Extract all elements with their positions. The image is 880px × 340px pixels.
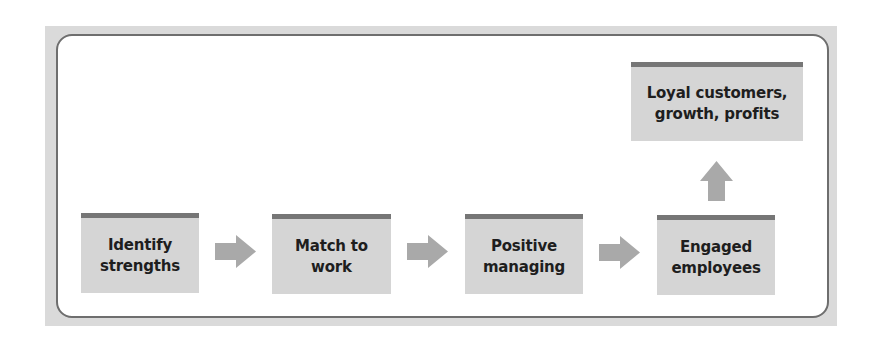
step-box-identify-strengths: Identify strengths bbox=[81, 213, 199, 293]
arrow-right-icon bbox=[215, 235, 257, 268]
step-label: Positive managing bbox=[483, 236, 565, 278]
arrow-right-icon bbox=[599, 236, 641, 269]
step-label: Identify strengths bbox=[100, 235, 180, 277]
step-label: Match to work bbox=[295, 236, 368, 278]
outcome-label: Loyal customers, growth, profits bbox=[647, 83, 788, 125]
step-box-match-to-work: Match to work bbox=[272, 214, 391, 294]
outcome-box: Loyal customers, growth, profits bbox=[631, 62, 803, 141]
step-box-positive-managing: Positive managing bbox=[465, 214, 583, 294]
arrow-right-icon bbox=[407, 235, 449, 268]
step-box-engaged-employees: Engaged employees bbox=[657, 215, 775, 295]
arrow-up-icon bbox=[700, 161, 733, 201]
step-label: Engaged employees bbox=[671, 237, 760, 279]
